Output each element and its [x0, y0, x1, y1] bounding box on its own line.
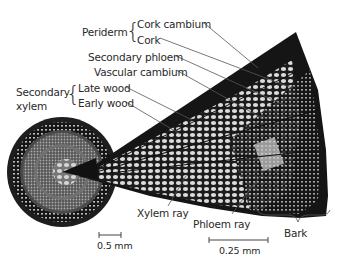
- label-secondary-xylem-2: xylem: [16, 100, 47, 112]
- label-cork: Cork: [137, 34, 160, 46]
- label-periderm: Periderm: [82, 26, 128, 38]
- label-bark: Bark: [284, 227, 307, 239]
- label-xylem-ray: Xylem ray: [137, 207, 189, 219]
- label-cork-cambium: Cork cambium: [137, 18, 211, 30]
- label-late-wood: Late wood: [78, 82, 131, 94]
- label-early-wood: Early wood: [78, 97, 134, 109]
- label-secondary-xylem-1: Secondary: [16, 86, 70, 98]
- label-phloem-ray: Phloem ray: [193, 218, 250, 230]
- scale-bar-label-whole: 0.5 mm: [97, 240, 132, 252]
- label-secondary-phloem: Secondary phloem: [88, 51, 183, 63]
- scale-bar-label-magnified: 0.25 mm: [219, 245, 260, 257]
- label-vascular-cambium: Vascular cambium: [94, 66, 187, 78]
- micrograph-artwork: [0, 0, 342, 264]
